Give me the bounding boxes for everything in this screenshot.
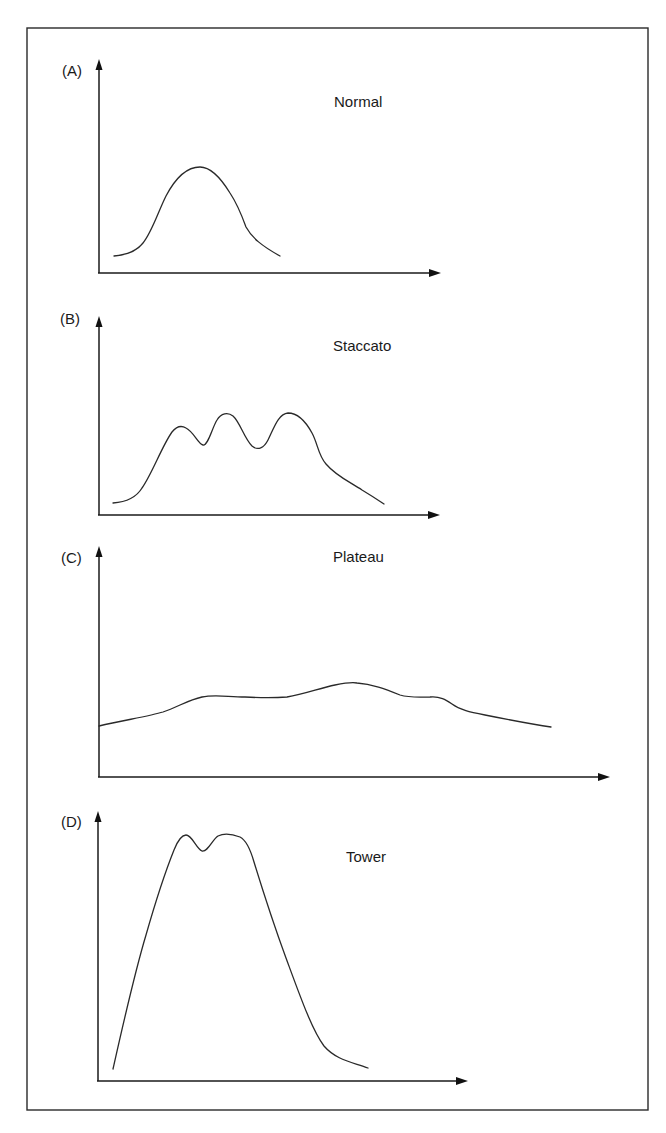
panel-d-y-arrow-icon (95, 811, 102, 822)
panel-d-title: Tower (346, 848, 386, 865)
panel-a-curve (114, 167, 280, 256)
panel-d-curve (113, 834, 368, 1069)
panel-a-label: (A) (62, 62, 82, 79)
figure-canvas: (A) Normal (B) Staccato (C) Plateau (0, 0, 666, 1133)
panel-b-title: Staccato (333, 337, 391, 354)
panel-a: (A) Normal (62, 59, 441, 277)
panel-d: (D) Tower (61, 811, 468, 1085)
panel-a-x-arrow-icon (429, 269, 441, 277)
panel-d-label: (D) (61, 813, 82, 830)
panel-b-x-arrow-icon (428, 511, 440, 519)
panel-c-curve (99, 683, 551, 727)
panel-a-y-arrow-icon (96, 59, 103, 70)
panel-c: (C) Plateau (61, 546, 610, 781)
panel-b-y-arrow-icon (96, 316, 103, 327)
panel-b: (B) Staccato (60, 310, 440, 519)
panel-c-y-arrow-icon (96, 546, 103, 557)
panel-b-curve (113, 413, 384, 504)
panel-a-title: Normal (334, 93, 382, 110)
panel-c-x-arrow-icon (598, 773, 610, 781)
figure: (A) Normal (B) Staccato (C) Plateau (0, 0, 666, 1133)
panel-c-title: Plateau (333, 548, 384, 565)
panel-d-x-arrow-icon (456, 1077, 468, 1085)
panel-b-label: (B) (60, 310, 80, 327)
panel-c-label: (C) (61, 549, 82, 566)
figure-frame (27, 28, 648, 1110)
